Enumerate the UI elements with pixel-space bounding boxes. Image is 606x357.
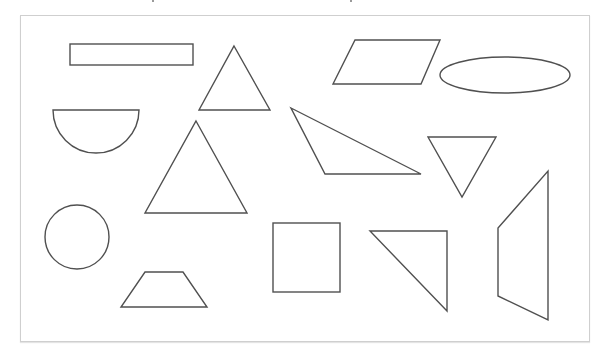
square-shape [273, 223, 340, 292]
irregular-quadrilateral-shape [498, 171, 548, 320]
ellipse-shape [440, 57, 570, 93]
semicircle-shape [53, 110, 139, 153]
right-triangle-shape [370, 231, 447, 311]
small-triangle-shape [199, 46, 270, 110]
parallelogram-shape [333, 40, 440, 84]
shapes-canvas [0, 0, 606, 357]
obtuse-triangle-shape [291, 108, 421, 174]
circle-shape [45, 205, 109, 269]
inverted-triangle-shape [428, 137, 496, 197]
large-triangle-shape [145, 121, 247, 213]
trapezoid-shape [121, 272, 207, 307]
rectangle-shape [70, 44, 193, 65]
